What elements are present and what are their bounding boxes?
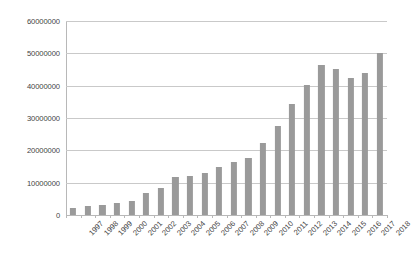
x-tick-mark [270,215,271,218]
x-tick-mark [343,215,344,218]
y-tick-label: 50000000 [0,49,60,58]
x-tick-mark [212,215,213,218]
bar-2011 [274,126,280,215]
y-tick-label: 60000000 [0,17,60,26]
x-tick-mark [81,215,82,218]
bar-slot [139,21,154,215]
x-tick-mark [372,215,373,218]
x-tick-mark [241,215,242,218]
x-tick-label-2018: 2018 [394,219,412,237]
bar-2017 [362,73,368,215]
x-tick-label-2012: 2012 [306,219,324,237]
bar-slot [81,21,96,215]
bar-slot [256,21,271,215]
bar-2003 [158,188,164,215]
bar-slot [212,21,227,215]
y-tick-label: 40000000 [0,81,60,90]
x-tick-mark [154,215,155,218]
bar-2006 [202,173,208,215]
bar-2002 [143,193,149,215]
bar-slot [343,21,358,215]
x-tick-label-2011: 2011 [291,219,309,237]
x-tick-mark [227,215,228,218]
bar-slot [329,21,344,215]
bar-2015 [333,69,339,215]
x-tick-mark [139,215,140,218]
bar-2008 [231,162,237,215]
bar-slot [241,21,256,215]
bar-2012 [289,104,295,215]
bar-slot [154,21,169,215]
y-tick-label: 10000000 [0,178,60,187]
x-tick-mark [358,215,359,218]
x-tick-label-2015: 2015 [350,219,368,237]
x-tick-mark [256,215,257,218]
bar-2009 [245,158,251,215]
x-axis-tick-labels: 1997199819992000200120022003200420052006… [66,215,387,263]
bar-2014 [318,65,324,215]
bar-series [66,21,387,215]
bar-slot [168,21,183,215]
x-tick-mark [168,215,169,218]
bar-slot [299,21,314,215]
bar-slot [285,21,300,215]
x-tick-mark [95,215,96,218]
bar-slot [95,21,110,215]
bar-2013 [304,85,310,215]
bar-2001 [129,201,135,215]
bar-slot [197,21,212,215]
bar-slot [227,21,242,215]
bar-slot [66,21,81,215]
bar-slot [314,21,329,215]
x-tick-mark [285,215,286,218]
x-tick-mark [66,215,67,218]
x-tick-label-2005: 2005 [204,219,222,237]
x-tick-mark [299,215,300,218]
x-tick-mark [387,215,388,218]
bar-2018 [377,53,383,215]
bar-1999 [99,205,105,215]
y-tick-label: 0 [0,211,60,220]
bar-slot [124,21,139,215]
bar-2016 [347,78,353,215]
bar-2004 [172,177,178,215]
x-tick-mark [197,215,198,218]
x-tick-label-2017: 2017 [379,219,397,237]
y-tick-label: 20000000 [0,146,60,155]
bar-2010 [260,143,266,215]
x-tick-mark [183,215,184,218]
bar-slot [372,21,387,215]
x-tick-label-2007: 2007 [233,219,251,237]
x-tick-mark [329,215,330,218]
x-tick-mark [124,215,125,218]
y-tick-label: 30000000 [0,114,60,123]
x-tick-label-2000: 2000 [131,219,149,237]
bar-2005 [187,176,193,215]
x-tick-mark [314,215,315,218]
bar-1997 [70,208,76,215]
bar-2007 [216,167,222,216]
bar-slot [270,21,285,215]
x-tick-mark [110,215,111,218]
bar-slot [358,21,373,215]
bar-1998 [85,206,91,215]
bar-slot [183,21,198,215]
bar-2000 [114,203,120,215]
bar-slot [110,21,125,215]
